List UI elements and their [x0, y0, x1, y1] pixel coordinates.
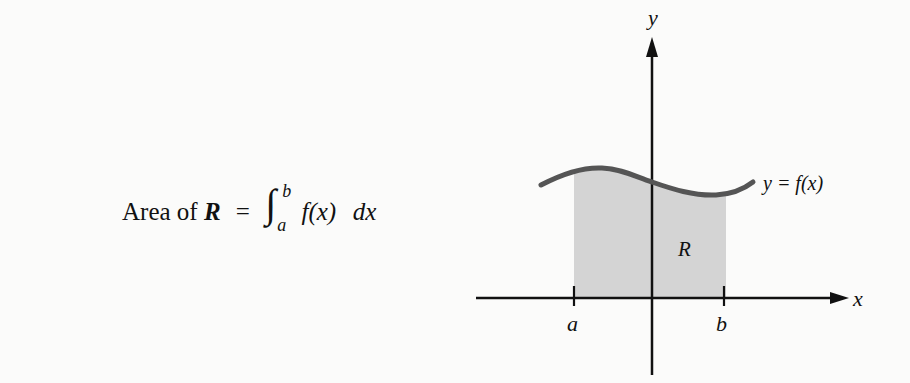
tick-a-label: a	[567, 311, 578, 336]
x-axis-arrow-icon	[830, 292, 849, 304]
x-axis-label: x	[852, 286, 863, 311]
y-axis-label: y	[646, 5, 658, 30]
region-r	[574, 167, 726, 298]
area-graph: y x a b y = f(x) R	[0, 0, 910, 383]
region-label: R	[677, 237, 691, 261]
tick-b-label: b	[716, 311, 727, 336]
curve-label: y = f(x)	[761, 172, 823, 195]
y-axis-arrow-icon	[646, 37, 658, 57]
